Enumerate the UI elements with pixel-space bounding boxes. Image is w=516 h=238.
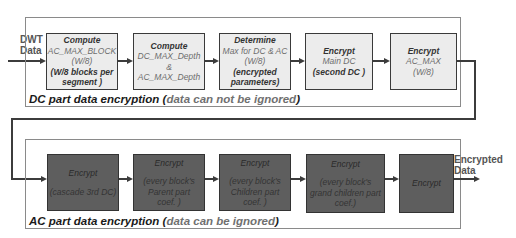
box-text: grand children part	[310, 188, 381, 199]
ac-box-encrypt-grandchildren: Encrypt (every block's grand children pa…	[306, 154, 385, 213]
output-label: Encrypted Data	[454, 154, 503, 176]
box-text: (second DC )	[313, 67, 365, 78]
ac-connector-1-2	[119, 178, 127, 180]
box-text: Encrypt	[331, 159, 360, 170]
box-text: &	[166, 62, 172, 73]
box-text: DC_MAX_Depth	[138, 51, 201, 62]
box-text: parameters)	[231, 77, 280, 88]
box-text: Determine	[234, 35, 276, 46]
box-text: Encrypt	[408, 46, 440, 57]
ac-box-encrypt-cascade: Encrypt (cascade 3rd DC)	[47, 154, 119, 211]
ac-connector-2-3	[205, 178, 213, 180]
box-text: (W/8)	[413, 67, 434, 78]
box-text: Main DC	[322, 56, 355, 67]
dc-group-caption: DC part data encryption (data can not be…	[29, 93, 300, 105]
dc-connector-4-5	[373, 60, 384, 62]
box-text: coef. )	[157, 197, 181, 208]
box-text: (W/8)	[72, 56, 93, 67]
dc-connector-1-2	[118, 60, 127, 62]
dc-connector-3-4	[291, 60, 299, 62]
box-text: Encrypt	[241, 158, 270, 169]
output-arrowhead	[474, 176, 480, 182]
box-text: Encrypt	[323, 46, 355, 57]
box-text: Compute	[64, 35, 101, 46]
output-arrow-line	[454, 178, 474, 180]
link-right-vertical	[474, 60, 476, 120]
output-label-line2: Data	[454, 165, 503, 176]
ac-connector-3-4	[291, 178, 300, 180]
box-text: AC_MAX	[406, 56, 441, 67]
ac-caption-paren-close: )	[275, 215, 279, 227]
box-text: (every block's	[320, 177, 372, 188]
dc-caption-paren-close: )	[296, 93, 300, 105]
box-text: coef. )	[243, 197, 267, 208]
box-text: (W/8)	[245, 56, 266, 67]
dc-box-encrypt-ac-max: Encrypt AC_MAX (W/8)	[390, 33, 457, 90]
box-text: (every block's	[143, 176, 195, 187]
box-text: Max for DC & AC	[223, 46, 288, 57]
box-text: AC_MAX_Depth	[138, 72, 200, 83]
ac-box-encrypt-children: Encrypt (every block's Children part coe…	[219, 154, 291, 211]
box-text: (encrypted	[233, 67, 276, 78]
dc-box-determine-max: Determine Max for DC & AC (W/8) (encrypt…	[219, 33, 291, 90]
ac-box-encrypt-final: Encrypt	[399, 154, 454, 213]
box-text: Encrypt	[155, 158, 184, 169]
dc-connector-2-3	[205, 60, 213, 62]
dc-box-compute-ac-max-block: Compute AC_MAX_BLOCK (W/8) (W/8 blocks p…	[46, 33, 118, 90]
output-label-line1: Encrypted	[454, 154, 503, 165]
dc-box-compute-depth: Compute DC_MAX_Depth & AC_MAX_Depth	[133, 33, 205, 90]
box-text: (W/8 blocks per	[51, 67, 114, 78]
ac-group-caption: AC part data encryption (data can be ign…	[29, 215, 279, 227]
link-bottom-horizontal	[11, 118, 476, 120]
box-text: segment )	[62, 77, 102, 88]
box-text: coef.)	[335, 198, 356, 209]
box-text: AC_MAX_BLOCK	[48, 46, 117, 57]
dc-caption-main: DC part data encryption	[29, 93, 159, 105]
dc-caption-paren-text: data can not be ignored	[166, 93, 296, 105]
ac-caption-paren-text: data can be ignored	[166, 215, 275, 227]
box-text: Compute	[151, 41, 188, 52]
box-text: Children part	[231, 187, 280, 198]
ac-box-encrypt-parent: Encrypt (every block's Parent part coef.…	[133, 154, 205, 211]
box-text: Encrypt	[412, 178, 441, 189]
box-text: (cascade 3rd DC)	[50, 187, 117, 198]
dc-box-encrypt-main-dc: Encrypt Main DC (second DC )	[305, 33, 373, 90]
box-text: (every block's	[229, 176, 281, 187]
ac-caption-main: AC part data encryption	[29, 215, 159, 227]
ac-connector-4-5	[385, 178, 393, 180]
box-text: Encrypt	[69, 168, 98, 179]
box-text: Parent part	[148, 187, 190, 198]
link-left-vertical	[11, 118, 13, 180]
